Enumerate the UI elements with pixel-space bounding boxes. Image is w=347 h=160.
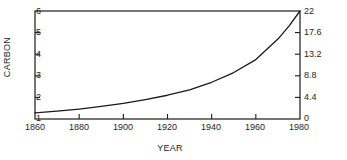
- y-right-tick-marks: [295, 33, 300, 98]
- x-tick-marks: [79, 114, 256, 119]
- carbon-emissions-curve: [35, 11, 300, 113]
- y-left-tick-marks: [35, 33, 40, 98]
- chart-container: CARBON CARBON DIOXIDE YEAR 6 5 4 3 2 1 2…: [0, 0, 347, 160]
- axis-rect: [35, 11, 300, 119]
- plot-area: [0, 0, 347, 160]
- axis-frame: [35, 11, 300, 119]
